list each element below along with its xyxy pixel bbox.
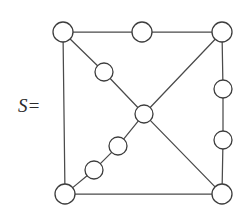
graph-node-right-upper [214,80,232,98]
graph-figure: S= [0,0,245,209]
graph-node-lower-left-diagonal-lower [85,161,103,179]
graph-node-right-lower [214,131,232,149]
graph-edge-right-side-upper-segment [222,42,223,81]
graph-edge-main-diagonal-upper-a [70,39,98,66]
graph-edge-anti-diagonal-lower [150,120,215,187]
graph-node-center [135,105,153,123]
graph-edge-main-diagonal-upper-b [110,78,138,108]
graph-node-lower-left-diagonal-upper [109,137,127,155]
graph-canvas [0,0,245,209]
graph-edge-right-side-lower-segment [222,149,223,185]
graph-node-bottom-left-corner [55,184,75,204]
graph-edge-main-diagonal-lower-a [123,121,138,140]
graph-node-top-right-corner [212,22,232,42]
graph-node-upper-left-diagonal [95,63,113,81]
graph-edge-left-side [63,42,65,185]
graph-node-top-middle [132,22,152,42]
graph-node-top-left-corner [53,22,73,42]
graph-edge-main-diagonal-lower-c [72,175,87,187]
graph-edge-main-diagonal-lower-b [100,152,112,164]
graph-edge-anti-diagonal-upper [150,39,215,108]
graph-node-bottom-right-corner [212,184,232,204]
